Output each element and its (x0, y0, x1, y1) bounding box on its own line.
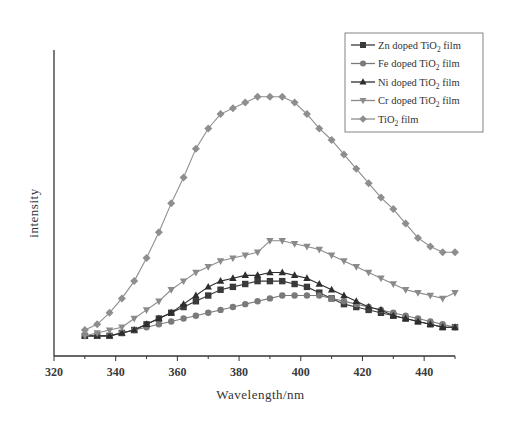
square-marker (193, 298, 199, 304)
circle-marker (193, 312, 199, 318)
square-marker (360, 42, 366, 48)
circle-marker (205, 310, 211, 316)
x-tick-label: 360 (168, 365, 186, 379)
diamond-marker (266, 93, 274, 101)
circle-marker (341, 298, 347, 304)
y-axis-title: intensity (26, 188, 41, 237)
triangle-up-marker (279, 268, 286, 275)
square-marker (230, 284, 236, 290)
chart: 320340360380400420440Wavelength/nmintens… (0, 0, 505, 425)
triangle-down-marker (131, 316, 138, 323)
circle-marker (267, 295, 273, 301)
square-marker (242, 281, 248, 287)
series-line (85, 241, 455, 336)
triangle-down-marker (192, 270, 199, 277)
diamond-marker (278, 93, 286, 101)
circle-marker (217, 307, 223, 313)
square-marker (279, 278, 285, 284)
diamond-marker (229, 104, 237, 112)
circle-marker (328, 295, 334, 301)
circle-marker (291, 292, 297, 298)
circle-marker (168, 318, 174, 324)
circle-marker (230, 304, 236, 310)
diamond-marker (143, 254, 151, 262)
diamond-marker (451, 248, 459, 256)
circle-marker (156, 321, 162, 327)
square-marker (254, 278, 260, 284)
square-marker (304, 284, 310, 290)
triangle-up-marker (266, 268, 273, 275)
circle-marker (304, 292, 310, 298)
triangle-down-marker (155, 299, 162, 306)
diamond-marker (130, 277, 138, 285)
triangle-down-marker (180, 278, 187, 285)
x-tick-label: 440 (415, 365, 433, 379)
diamond-marker (180, 173, 188, 181)
circle-marker (360, 61, 366, 67)
circle-marker (254, 298, 260, 304)
series-cr-doped-tio2-film (81, 238, 459, 340)
triangle-down-marker (143, 307, 150, 314)
x-tick-label: 320 (45, 365, 63, 379)
x-axis-title: Wavelength/nm (216, 387, 305, 402)
circle-marker (316, 292, 322, 298)
x-tick-label: 420 (353, 365, 371, 379)
square-marker (205, 292, 211, 298)
diamond-marker (167, 199, 175, 207)
circle-marker (242, 301, 248, 307)
triangle-up-marker (242, 271, 249, 278)
diamond-marker (155, 228, 163, 236)
triangle-up-marker (180, 300, 187, 307)
legend: Zn doped TiO2 filmFe doped TiO2 filmNi d… (345, 33, 483, 132)
square-marker (267, 278, 273, 284)
x-tick-label: 380 (230, 365, 248, 379)
triangle-down-marker (439, 296, 446, 303)
square-marker (291, 281, 297, 287)
diamond-marker (426, 243, 434, 251)
triangle-up-marker (192, 292, 199, 299)
series-zn-doped-tio2-film (82, 278, 459, 339)
diamond-marker (254, 93, 262, 101)
circle-marker (279, 292, 285, 298)
diamond-marker (439, 248, 447, 256)
x-tick-label: 340 (107, 365, 125, 379)
diamond-marker (241, 99, 249, 107)
x-tick-label: 400 (292, 365, 310, 379)
diamond-marker (192, 145, 200, 153)
circle-marker (180, 315, 186, 321)
square-marker (217, 287, 223, 293)
